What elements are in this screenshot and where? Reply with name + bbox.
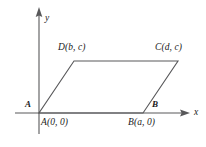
vertex-coords-d: D(b, c) [58, 43, 86, 53]
y-axis-label: y [45, 14, 49, 24]
vertex-label-a: A [25, 100, 31, 109]
x-axis-label: x [194, 108, 198, 118]
vertex-coords-c: C(d, c) [155, 43, 182, 53]
vertex-label-b: B [152, 100, 158, 109]
geometry-figure [0, 0, 206, 147]
figure-container: x y A B A(0, 0) B(a, 0) C(d, c) D(b, c) [0, 0, 206, 147]
vertex-coords-b: B(a, 0) [128, 118, 155, 128]
vertex-coords-a: A(0, 0) [41, 118, 68, 128]
